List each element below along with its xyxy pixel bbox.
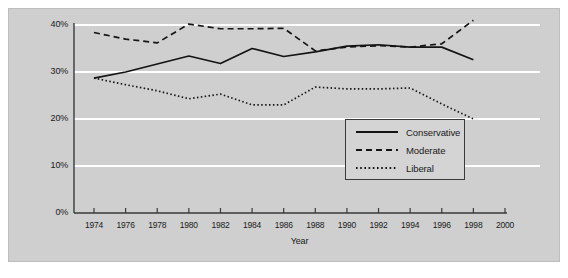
gridlines-group xyxy=(74,25,540,166)
x-axis-title: Year xyxy=(260,236,340,246)
x-tick-marks xyxy=(94,208,505,213)
chart-figure: 0%10%20%30%40% 1974197619781980198219841… xyxy=(0,0,568,278)
y-tick-label: 10% xyxy=(28,160,68,170)
legend-item-moderate: Moderate xyxy=(354,142,445,158)
legend-swatch-dotted-icon xyxy=(354,162,400,174)
legend-swatch-solid-icon xyxy=(354,126,400,138)
legend-item-liberal: Liberal xyxy=(354,160,434,176)
series-line-liberal xyxy=(94,78,473,119)
y-tick-label: 40% xyxy=(28,19,68,29)
series-line-conservative xyxy=(94,45,473,78)
legend-label-moderate: Moderate xyxy=(406,145,445,156)
y-tick-label: 30% xyxy=(28,66,68,76)
data-series-group xyxy=(94,20,473,119)
y-tick-label: 0% xyxy=(28,207,68,217)
x-tick-label: 2000 xyxy=(485,220,525,230)
legend-label-liberal: Liberal xyxy=(406,163,434,174)
legend-label-conservative: Conservative xyxy=(406,127,460,138)
legend-item-conservative: Conservative xyxy=(354,124,460,140)
y-tick-label: 20% xyxy=(28,113,68,123)
chart-legend: Conservative Moderate Liberal xyxy=(345,119,465,180)
legend-swatch-dashed-icon xyxy=(354,144,400,156)
